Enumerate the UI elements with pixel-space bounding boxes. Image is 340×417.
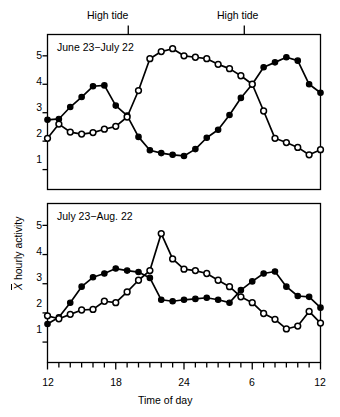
panel-bottom-ytick-5: 5	[26, 219, 42, 231]
panel-bottom-ytick-1: 1	[26, 323, 42, 335]
panel-bottom-series	[45, 231, 324, 332]
xtick-label-12a: 12	[36, 376, 60, 388]
xtick-label-18: 18	[104, 376, 128, 388]
panel-bottom-ytick-2: 2	[26, 297, 42, 309]
xtick-label-12b: 12	[308, 376, 332, 388]
high-tide-ticks	[128, 26, 244, 35]
y-axis-title: X hourly activity	[12, 216, 24, 290]
panel-top-ytick-4: 4	[26, 75, 42, 87]
panel-bottom-title: July 23−Aug. 22	[57, 210, 133, 222]
panel-top-ytick-2: 2	[26, 127, 42, 139]
y-axis-title-rest: hourly activity	[12, 216, 24, 283]
panel-top-ytick-1: 1	[26, 153, 42, 165]
high-tide-label-left: High tide	[87, 9, 128, 21]
panel-bottom-axis-ticks	[43, 225, 321, 369]
panel-top-title: June 23−July 22	[57, 41, 134, 53]
panel-top-ytick-3: 3	[26, 101, 42, 113]
panel-top-axis-ticks	[43, 56, 48, 170]
xtick-label-6: 6	[240, 376, 264, 388]
figure-container: High tide High tide June 23−July 22 July…	[0, 0, 340, 417]
panel-bottom-ytick-4: 4	[26, 245, 42, 257]
high-tide-label-right: High tide	[217, 9, 258, 21]
panel-bottom-ytick-3: 3	[26, 271, 42, 283]
chart-canvas	[0, 0, 340, 417]
panel-top-series	[45, 46, 324, 159]
panel-top-ytick-5: 5	[26, 49, 42, 61]
panel-bottom-frame	[48, 204, 321, 363]
x-axis-title: Time of day	[138, 394, 192, 406]
y-axis-title-symbol: X	[12, 283, 24, 290]
xtick-label-24: 24	[172, 376, 196, 388]
